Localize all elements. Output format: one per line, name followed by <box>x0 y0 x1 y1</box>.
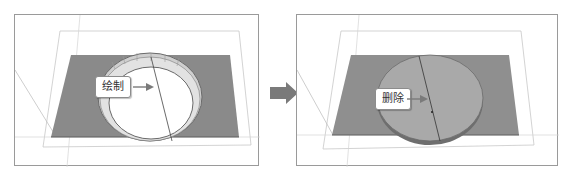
right-panel-delete-ring: 删除 <box>296 14 558 166</box>
left-panel-draw-ring: 绘制 <box>14 14 259 166</box>
delete-callout-label: 删除 <box>375 88 411 110</box>
arrow-right-icon <box>133 82 155 92</box>
disk-scene-illustration <box>297 15 559 167</box>
draw-callout-label: 绘制 <box>95 76 131 98</box>
arrow-right-icon <box>407 94 429 104</box>
